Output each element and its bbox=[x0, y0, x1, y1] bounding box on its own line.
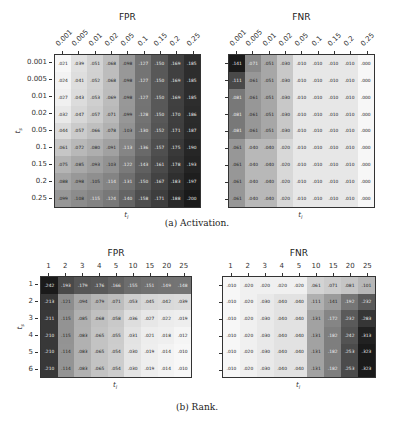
x-tick-mark bbox=[252, 51, 253, 54]
x-tick-mark bbox=[116, 273, 117, 276]
y-tick-label: 0.15 bbox=[14, 160, 47, 168]
heatmap-cell: .010 bbox=[293, 190, 309, 207]
heatmap-cell: .253 bbox=[341, 360, 358, 377]
heatmap-cell: .136 bbox=[135, 139, 151, 156]
heatmap-cell: .114 bbox=[103, 173, 119, 190]
heatmap-cell: .175 bbox=[168, 139, 184, 156]
x-tick-label: 0.15 bbox=[152, 31, 169, 48]
heatmap-cell: .010 bbox=[325, 72, 341, 89]
heatmap-cell: .010 bbox=[309, 173, 325, 190]
y-tick-mark bbox=[219, 319, 222, 320]
heatmap-cell: .030 bbox=[257, 344, 274, 361]
heatmap-cell: .051 bbox=[261, 55, 277, 72]
heatmap-cell: .040 bbox=[261, 173, 277, 190]
heatmap-cell: .010 bbox=[293, 139, 309, 156]
x-tick-mark bbox=[167, 273, 168, 276]
heatmap-title: FPR bbox=[40, 248, 192, 258]
heatmap-cell: .091 bbox=[103, 139, 119, 156]
heatmap-cell: .010 bbox=[309, 55, 325, 72]
heatmap-cell: .169 bbox=[168, 89, 184, 106]
heatmap-cell: .210 bbox=[41, 344, 58, 361]
heatmap-cell: .098 bbox=[119, 72, 135, 89]
heatmap-cell: .242 bbox=[341, 327, 358, 344]
heatmap-cell: .021 bbox=[141, 327, 158, 344]
heatmap-cell: .053 bbox=[124, 294, 141, 311]
heatmap-cell: .103 bbox=[103, 156, 119, 173]
heatmap-cell: .190 bbox=[184, 139, 200, 156]
x-tick-label: 0.2 bbox=[169, 34, 183, 48]
heatmap-cell: .098 bbox=[119, 55, 135, 72]
heatmap-cell: .019 bbox=[174, 310, 191, 327]
x-tick-mark bbox=[65, 273, 66, 276]
heatmap-cell: .010 bbox=[223, 344, 240, 361]
heatmap-cell: .114 bbox=[58, 344, 75, 361]
heatmap-cell: .020 bbox=[277, 173, 293, 190]
x-tick-mark bbox=[95, 51, 96, 54]
x-tick-mark bbox=[248, 273, 249, 276]
heatmap-cell: .027 bbox=[55, 89, 71, 106]
heatmap-cell: .010 bbox=[223, 360, 240, 377]
heatmap-cell: .192 bbox=[341, 294, 358, 311]
heatmap-cell: .020 bbox=[240, 310, 257, 327]
heatmap-cell: .054 bbox=[108, 360, 125, 377]
heatmap-cell: .010 bbox=[342, 173, 358, 190]
x-tick-label: 0.005 bbox=[245, 28, 265, 48]
heatmap-cell: .000 bbox=[358, 123, 374, 140]
heatmap-cell: .000 bbox=[358, 156, 374, 173]
heatmap-cell: .040 bbox=[274, 360, 291, 377]
heatmap-cell: .014 bbox=[158, 344, 175, 361]
heatmap-cell: .040 bbox=[291, 360, 308, 377]
heatmap-cell: .000 bbox=[358, 89, 374, 106]
heatmap-cell: .066 bbox=[87, 123, 103, 140]
y-tick-label: 0.25 bbox=[14, 194, 47, 202]
x-tick-mark bbox=[285, 51, 286, 54]
heatmap-cell: .140 bbox=[119, 190, 135, 207]
y-tick-mark bbox=[219, 302, 222, 303]
x-tick-mark bbox=[111, 51, 112, 54]
y-tick-label: 3 bbox=[0, 314, 33, 322]
x-tick-label: 2 bbox=[57, 262, 73, 270]
heatmap-cell: .150 bbox=[151, 55, 167, 72]
heatmap-cell: .030 bbox=[277, 72, 293, 89]
y-tick-label: 2 bbox=[0, 297, 33, 305]
x-tick-mark bbox=[299, 273, 300, 276]
y-tick-mark bbox=[225, 182, 228, 183]
heatmap-cell: .182 bbox=[324, 344, 341, 361]
heatmap-cell: .040 bbox=[274, 327, 291, 344]
x-tick-label: 0.02 bbox=[103, 31, 120, 48]
heatmap-cell: .176 bbox=[91, 277, 108, 294]
heatmap-cell: .000 bbox=[358, 106, 374, 123]
x-tick-mark bbox=[184, 273, 185, 276]
x-tick-label: 2 bbox=[240, 262, 256, 270]
heatmap-cell: .039 bbox=[71, 55, 87, 72]
heatmap-cell: .171 bbox=[168, 123, 184, 140]
x-tick-label: 10 bbox=[308, 262, 324, 270]
heatmap-cell: .030 bbox=[257, 327, 274, 344]
heatmap-cell: .051 bbox=[261, 72, 277, 89]
heatmap-cell: .032 bbox=[55, 106, 71, 123]
heatmap-cell: .010 bbox=[174, 360, 191, 377]
heatmap-cell: .036 bbox=[124, 310, 141, 327]
heatmap-cell: .020 bbox=[240, 327, 257, 344]
heatmap-cell: .030 bbox=[277, 106, 293, 123]
heatmap-cell: .188 bbox=[168, 190, 184, 207]
heatmap-cell: .200 bbox=[184, 190, 200, 207]
heatmap-cell: .167 bbox=[151, 173, 167, 190]
x-tick-mark bbox=[144, 51, 145, 54]
heatmap-cell: .081 bbox=[229, 106, 245, 123]
x-tick-label: 1 bbox=[40, 262, 56, 270]
x-tick-label: 5 bbox=[291, 262, 307, 270]
heatmap-cell: .099 bbox=[55, 190, 71, 207]
heatmap-cell: .010 bbox=[293, 72, 309, 89]
heatmap-cell: .193 bbox=[58, 277, 75, 294]
heatmap-title: FNR bbox=[228, 12, 375, 22]
heatmap-cell: .182 bbox=[324, 360, 341, 377]
y-tick-mark bbox=[225, 148, 228, 149]
heatmap-cell: .313 bbox=[358, 327, 375, 344]
heatmap-cell: .010 bbox=[293, 55, 309, 72]
heatmap-cell: .068 bbox=[103, 55, 119, 72]
x-tick-mark bbox=[62, 51, 63, 54]
heatmap-cell: .158 bbox=[135, 190, 151, 207]
heatmap-cell: .065 bbox=[91, 327, 108, 344]
y-tick-label: 1 bbox=[0, 280, 33, 288]
